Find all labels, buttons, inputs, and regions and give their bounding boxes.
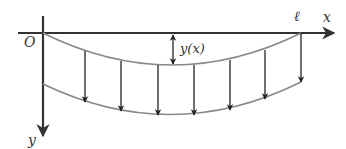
x-axis-label: x: [323, 9, 331, 25]
deflection-label: y(x): [179, 41, 205, 56]
origin-label: O: [24, 34, 36, 50]
beam-diagram: O ℓ x y y(x): [0, 0, 346, 149]
length-label: ℓ: [294, 8, 300, 24]
y-axis-label: y: [27, 132, 37, 148]
deflection-curve-upper: [43, 33, 301, 65]
deflection-curve-lower: [43, 82, 301, 115]
